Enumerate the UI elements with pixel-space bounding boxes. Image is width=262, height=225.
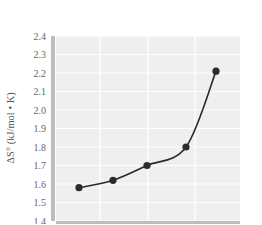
y-tick-label: 2.4 bbox=[34, 31, 47, 42]
y-tick-label: 2.1 bbox=[34, 86, 47, 97]
y-tick-label: 2.2 bbox=[34, 68, 47, 79]
y-axis-strip bbox=[51, 36, 55, 221]
data-point bbox=[182, 143, 189, 150]
y-tick-label: 1.7 bbox=[34, 160, 47, 171]
data-point bbox=[109, 177, 116, 184]
y-axis-label: ΔS° (kJ/mol • K) bbox=[5, 92, 17, 164]
data-point bbox=[143, 162, 150, 169]
y-tick-label: 1.9 bbox=[34, 123, 47, 134]
y-tick-label: 1.5 bbox=[34, 197, 47, 208]
y-tick-label: 2.0 bbox=[34, 105, 47, 116]
x-axis-strip bbox=[56, 221, 240, 224]
data-point bbox=[212, 68, 219, 75]
chart: 2.42.32.22.12.01.91.81.71.61.51.4 ΔS° (k… bbox=[0, 0, 262, 224]
y-tick-label: 1.4 bbox=[34, 216, 47, 225]
y-tick-label: 2.3 bbox=[34, 49, 47, 60]
y-tick-label: 1.6 bbox=[34, 179, 47, 190]
y-tick-label: 1.8 bbox=[34, 142, 47, 153]
y-axis-tick-labels: 2.42.32.22.12.01.91.81.71.61.51.4 bbox=[34, 31, 47, 225]
data-point bbox=[75, 184, 82, 191]
